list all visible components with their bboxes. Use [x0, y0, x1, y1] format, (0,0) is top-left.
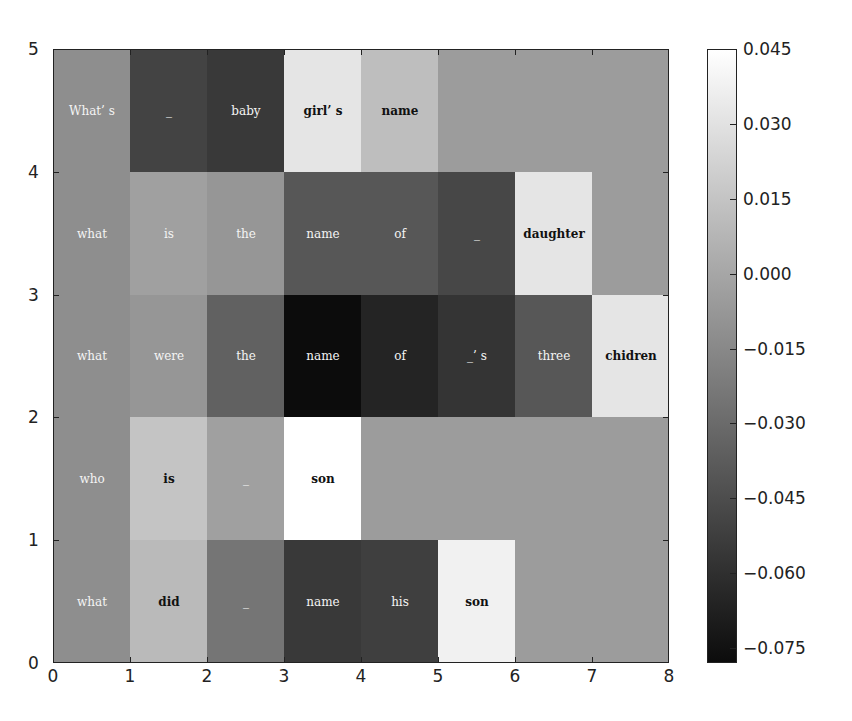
y-tick-label: 2 [28, 407, 39, 427]
heatmap-cell [592, 417, 669, 541]
heatmap-cell: three [515, 295, 593, 419]
y-tick-mark [663, 540, 669, 541]
x-tick-mark [361, 657, 362, 663]
y-tick-label: 3 [28, 285, 39, 305]
heatmap-cell [515, 540, 593, 663]
heatmap-cell: is [130, 172, 208, 296]
colorbar-tick-mark [730, 423, 736, 424]
heatmap-cell: is [130, 417, 208, 541]
colorbar-tick-mark [730, 573, 736, 574]
y-tick-label: 0 [28, 653, 39, 673]
heatmap-cell [361, 417, 439, 541]
colorbar-tick-mark [730, 49, 736, 50]
colorbar [707, 49, 737, 663]
colorbar-tick-label: −0.030 [743, 413, 806, 433]
heatmap-cell: _ [438, 172, 516, 296]
heatmap-cell [515, 417, 593, 541]
heatmap-cell: name [284, 295, 362, 419]
heatmap-cell [592, 49, 669, 173]
x-tick-label: 5 [433, 666, 444, 686]
colorbar-tick-mark [730, 349, 736, 350]
heatmap-cell: of [361, 295, 439, 419]
x-tick-label: 8 [664, 666, 675, 686]
x-tick-mark [361, 49, 362, 55]
heatmap-cell: were [130, 295, 208, 419]
colorbar-tick-mark [730, 498, 736, 499]
x-tick-label: 6 [510, 666, 521, 686]
heatmap-cell: _ [207, 417, 285, 541]
colorbar-tick-label: 0.000 [743, 264, 792, 284]
heatmap-cell: who [53, 417, 131, 541]
x-tick-mark [207, 657, 208, 663]
x-tick-mark [284, 49, 285, 55]
y-tick-mark [663, 295, 669, 296]
heatmap-plot-area: What’ s_babygirl’ snamewhatisthenameof_d… [53, 49, 669, 663]
heatmap-cell [438, 417, 516, 541]
heatmap-cell [592, 172, 669, 296]
heatmap-cell: the [207, 172, 285, 296]
colorbar-tick-label: 0.030 [743, 114, 792, 134]
x-tick-label: 1 [125, 666, 136, 686]
y-tick-label: 4 [28, 162, 39, 182]
heatmap-cell [592, 540, 669, 663]
x-tick-mark [438, 657, 439, 663]
heatmap-cell: baby [207, 49, 285, 173]
heatmap-cell: daughter [515, 172, 593, 296]
y-tick-label: 5 [28, 39, 39, 59]
heatmap-cell: what [53, 540, 131, 663]
heatmap-cell: _’ s [438, 295, 516, 419]
heatmap-cell: what [53, 295, 131, 419]
x-tick-mark [592, 49, 593, 55]
y-tick-mark [663, 417, 669, 418]
heatmap-cell: his [361, 540, 439, 663]
colorbar-tick-label: −0.045 [743, 488, 806, 508]
heatmap-cell: did [130, 540, 208, 663]
heatmap-cell [515, 49, 593, 173]
heatmap-cell: the [207, 295, 285, 419]
x-tick-mark [515, 657, 516, 663]
colorbar-tick-label: 0.015 [743, 189, 792, 209]
x-tick-label: 7 [587, 666, 598, 686]
y-tick-mark [53, 417, 59, 418]
colorbar-tick-label: 0.045 [743, 39, 792, 59]
x-tick-mark [438, 49, 439, 55]
x-tick-label: 2 [202, 666, 213, 686]
heatmap-cell: What’ s [53, 49, 131, 173]
heatmap-cell: chidren [592, 295, 669, 419]
heatmap-cell: name [284, 172, 362, 296]
y-tick-mark [53, 172, 59, 173]
heatmap-cell: _ [130, 49, 208, 173]
colorbar-tick-label: −0.075 [743, 638, 806, 658]
heatmap-cell: girl’ s [284, 49, 362, 173]
heatmap-cell: of [361, 172, 439, 296]
y-tick-mark [663, 172, 669, 173]
x-tick-label: 3 [279, 666, 290, 686]
colorbar-tick-mark [730, 274, 736, 275]
x-tick-label: 4 [356, 666, 367, 686]
y-tick-mark [53, 540, 59, 541]
colorbar-tick-mark [730, 199, 736, 200]
y-tick-label: 1 [28, 530, 39, 550]
x-tick-mark [592, 657, 593, 663]
y-tick-mark [53, 295, 59, 296]
heatmap-cell: what [53, 172, 131, 296]
heatmap-cell [438, 49, 516, 173]
x-tick-label: 0 [48, 666, 59, 686]
heatmap-cell: _ [207, 540, 285, 663]
colorbar-tick-mark [730, 648, 736, 649]
colorbar-tick-label: −0.060 [743, 563, 806, 583]
x-tick-mark [284, 657, 285, 663]
colorbar-tick-label: −0.015 [743, 339, 806, 359]
heatmap-cell: name [361, 49, 439, 173]
x-tick-mark [515, 49, 516, 55]
heatmap-cell: name [284, 540, 362, 663]
x-tick-mark [130, 657, 131, 663]
x-tick-mark [130, 49, 131, 55]
colorbar-tick-mark [730, 124, 736, 125]
heatmap-cell: son [284, 417, 362, 541]
x-tick-mark [207, 49, 208, 55]
heatmap-cell: son [438, 540, 516, 663]
